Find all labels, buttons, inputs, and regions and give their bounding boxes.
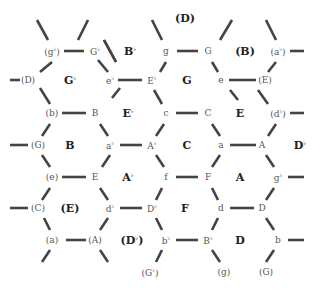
note-node: b♭ [162, 235, 171, 246]
grid-edge [266, 218, 274, 230]
grid-edge [42, 188, 50, 200]
grid-edge [100, 124, 108, 136]
grid-edge [42, 155, 50, 167]
note-node: (a♭) [270, 46, 285, 57]
grid-edge [212, 250, 220, 262]
note-node: B [92, 109, 99, 118]
grid-edge [268, 124, 276, 136]
chord-label: D [235, 235, 245, 246]
note-node: e [218, 76, 223, 85]
grid-edge [268, 62, 276, 72]
hex-grid-lines [0, 0, 316, 292]
chord-label: B♭ [124, 46, 136, 57]
chord-label: (D♭) [121, 235, 144, 246]
chord-label: G♭ [64, 75, 76, 86]
grid-edge [78, 20, 88, 40]
grid-edge [112, 88, 120, 98]
note-node: a♭ [106, 140, 114, 151]
note-node: (b) [46, 109, 59, 118]
grid-edge [212, 155, 220, 167]
grid-edge [40, 62, 52, 72]
note-node: (G) [31, 141, 45, 150]
grid-edge [258, 90, 268, 104]
grid-edge [104, 40, 116, 62]
grid-edge [230, 90, 238, 100]
chord-label: F [181, 203, 189, 214]
note-node: (g) [218, 268, 231, 277]
note-node: g♭ [274, 172, 283, 183]
note-node: G [204, 47, 211, 56]
grid-edge [100, 250, 108, 262]
grid-edge [266, 250, 274, 262]
grid-edge [156, 188, 162, 200]
chord-label: G [182, 75, 191, 86]
grid-edge [100, 188, 108, 200]
note-node: A♭ [147, 140, 156, 151]
grid-edge [42, 124, 50, 136]
note-node: (D) [21, 76, 35, 85]
note-node: d [218, 204, 224, 213]
note-node: c [163, 109, 168, 118]
note-node: E♭ [147, 75, 156, 86]
chord-label: A [236, 172, 245, 183]
note-node: (E) [258, 76, 272, 85]
grid-edge [156, 155, 164, 167]
note-node: b [275, 236, 281, 245]
note-node: D [258, 204, 265, 213]
note-node: (g♭) [44, 46, 60, 57]
note-node: G♭ [90, 46, 100, 57]
grid-edge [156, 250, 162, 262]
note-node: e♭ [106, 75, 114, 86]
grid-edge [152, 20, 162, 40]
grid-edge [100, 218, 108, 230]
note-node: f [164, 173, 167, 182]
chord-label: C [183, 140, 192, 151]
chord-label: (E) [61, 203, 80, 214]
grid-edge [212, 218, 218, 230]
note-node: (e) [46, 173, 58, 182]
grid-edge [266, 188, 274, 200]
grid-edge [212, 188, 218, 200]
chord-label: D♭ [294, 140, 306, 151]
note-node: d♭ [106, 203, 115, 214]
grid-edge [42, 250, 50, 262]
note-node: (a) [46, 236, 58, 245]
note-node: A [259, 141, 266, 150]
chord-label: E♭ [122, 108, 133, 119]
chord-label: (B) [235, 46, 255, 57]
chord-label: (D) [175, 13, 195, 24]
chord-label: B [65, 140, 74, 151]
note-node: B♭ [203, 235, 212, 246]
grid-edge [40, 88, 50, 104]
note-node: (d♭) [270, 108, 286, 119]
grid-edge [37, 20, 48, 40]
grid-edge [102, 155, 110, 167]
grid-edge [44, 218, 50, 230]
grid-edge [220, 20, 232, 40]
note-node: C [205, 109, 212, 118]
grid-edge [156, 124, 164, 136]
note-node: D♭ [147, 203, 157, 214]
grid-edge [160, 62, 166, 72]
grid-edge [154, 90, 162, 104]
note-node: g [163, 47, 169, 56]
note-node: (G♭) [141, 267, 158, 278]
note-node: (A) [88, 236, 102, 245]
grid-edge [98, 60, 108, 72]
grid-edge [156, 218, 162, 230]
chord-label: A♭ [122, 172, 133, 183]
grid-edge [266, 155, 274, 167]
note-node: E [92, 173, 99, 182]
note-node: (G) [259, 268, 273, 277]
grid-edge [212, 62, 218, 72]
note-node: a [218, 141, 223, 150]
note-node: (C) [31, 204, 45, 213]
chord-label: E [236, 108, 244, 119]
grid-edge [266, 20, 276, 40]
note-node: F [205, 173, 211, 182]
grid-edge [212, 124, 220, 136]
